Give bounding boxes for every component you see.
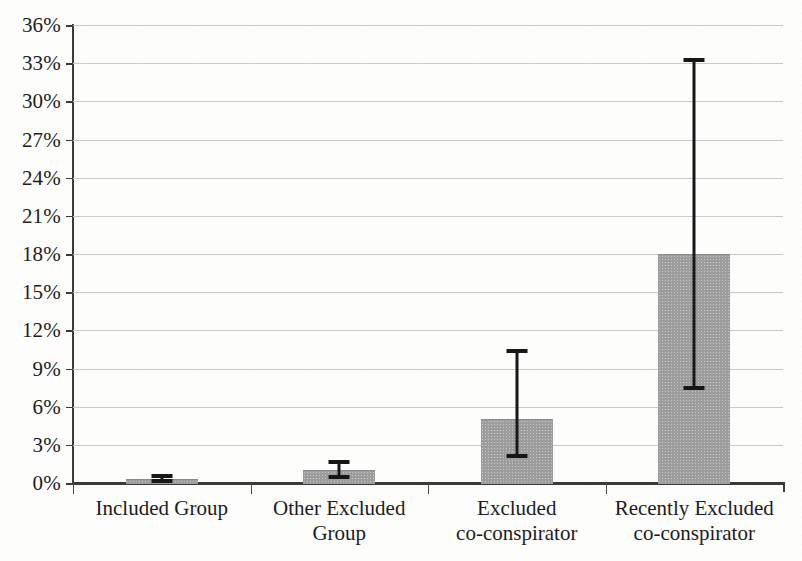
error-bar-stem xyxy=(693,58,696,390)
y-axis-label-24%: 24% xyxy=(0,165,61,190)
x-axis-label-2: Excludedco-conspirator xyxy=(428,496,606,546)
y-tick-mark xyxy=(66,140,73,142)
error-bar-stem xyxy=(515,349,518,457)
y-axis-label-15%: 15% xyxy=(0,280,61,305)
error-bar-cap-bottom xyxy=(684,386,705,390)
error-bar-cap-top xyxy=(684,58,705,62)
x-axis-end-tick xyxy=(783,482,785,492)
y-axis-label-27%: 27% xyxy=(0,127,61,152)
y-tick-mark xyxy=(66,330,73,332)
y-axis-label-33%: 33% xyxy=(0,51,61,76)
error-bar-0 xyxy=(150,474,174,483)
y-axis-label-30%: 30% xyxy=(0,89,61,114)
y-tick-mark xyxy=(66,254,73,256)
y-axis-label-3%: 3% xyxy=(0,432,61,457)
chart-figure: 0%3%6%9%12%15%18%21%24%27%30%33%36% Incl… xyxy=(0,0,802,561)
y-tick-mark xyxy=(66,369,73,371)
error-bar-cap-bottom xyxy=(506,454,527,458)
error-bar-2 xyxy=(505,349,529,457)
y-axis-label-18%: 18% xyxy=(0,242,61,267)
x-tick-separator xyxy=(251,483,252,494)
y-axis-label-9%: 9% xyxy=(0,356,61,381)
gridline-36% xyxy=(73,25,783,26)
y-tick-mark xyxy=(66,25,73,27)
x-axis-label-line: Recently Excluded xyxy=(606,496,784,521)
y-axis-label-21%: 21% xyxy=(0,203,61,228)
x-axis-label-line: Included Group xyxy=(73,496,251,521)
gridline-21% xyxy=(73,216,783,217)
plot-area xyxy=(73,25,783,483)
x-axis-label-line: Other Excluded xyxy=(251,496,429,521)
x-tick-separator xyxy=(428,483,429,494)
x-tick-origin xyxy=(73,483,74,494)
x-axis-label-0: Included Group xyxy=(73,496,251,521)
x-axis-label-3: Recently Excludedco-conspirator xyxy=(606,496,784,546)
gridline-24% xyxy=(73,178,783,179)
y-axis-label-0%: 0% xyxy=(0,471,61,496)
error-bar-cap-top xyxy=(506,349,527,353)
gridline-30% xyxy=(73,101,783,102)
y-tick-mark xyxy=(66,216,73,218)
x-axis-label-line: co-conspirator xyxy=(428,521,606,546)
error-bar-cap-bottom xyxy=(151,479,172,483)
y-tick-mark xyxy=(66,63,73,65)
x-axis-label-line: Group xyxy=(251,521,429,546)
x-axis-label-1: Other ExcludedGroup xyxy=(251,496,429,546)
error-bar-1 xyxy=(327,460,351,479)
gridline-27% xyxy=(73,140,783,141)
y-tick-mark xyxy=(66,292,73,294)
error-bar-3 xyxy=(682,58,706,390)
y-axis-label-36%: 36% xyxy=(0,13,61,38)
error-bar-cap-top xyxy=(329,460,350,464)
x-tick-separator xyxy=(606,483,607,494)
x-axis-label-line: co-conspirator xyxy=(606,521,784,546)
y-axis-label-12%: 12% xyxy=(0,318,61,343)
y-tick-mark xyxy=(66,445,73,447)
y-tick-mark xyxy=(66,178,73,180)
error-bar-cap-bottom xyxy=(329,475,350,479)
x-axis-label-line: Excluded xyxy=(428,496,606,521)
gridline-33% xyxy=(73,63,783,64)
y-axis-label-6%: 6% xyxy=(0,394,61,419)
y-tick-mark xyxy=(66,101,73,103)
error-bar-cap-top xyxy=(151,474,172,478)
y-tick-mark xyxy=(66,483,73,485)
y-tick-mark xyxy=(66,407,73,409)
